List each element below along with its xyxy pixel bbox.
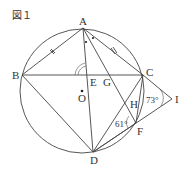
segment-bd xyxy=(22,75,93,152)
label-o: O xyxy=(78,92,86,104)
angle-dot-2 xyxy=(92,37,94,39)
geometry-figure: 図１ A B C D E G O H F I 73° 61° xyxy=(0,0,190,179)
label-a: A xyxy=(79,15,87,27)
segment-ad xyxy=(83,28,93,152)
segment-cd xyxy=(93,75,143,152)
angle-arc-e-1 xyxy=(78,66,86,75)
label-e: E xyxy=(90,76,97,88)
segment-ab xyxy=(22,28,83,75)
label-d: D xyxy=(90,154,98,166)
label-g: G xyxy=(103,76,111,88)
figure-title: 図１ xyxy=(12,10,32,21)
angle-dot-1 xyxy=(85,41,87,43)
label-f: F xyxy=(137,125,143,137)
label-h: H xyxy=(130,98,138,110)
label-i: I xyxy=(175,93,179,105)
angle-label-73: 73° xyxy=(146,95,159,105)
angle-arc-e-2 xyxy=(75,63,85,75)
label-c: C xyxy=(146,66,153,78)
angle-label-61: 61° xyxy=(115,119,128,129)
label-b: B xyxy=(12,69,19,81)
